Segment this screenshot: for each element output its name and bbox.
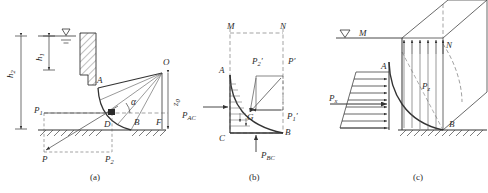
label-point-n-c: N: [446, 41, 452, 50]
px-pressure-diagram-c: [330, 62, 389, 130]
caption-panel-b: (b): [249, 172, 260, 182]
dashed-diagonal-c: [402, 52, 443, 130]
water-surface-c: [336, 30, 402, 38]
label-force-px-c: Px: [329, 94, 337, 103]
dashed-curve-c: [443, 44, 462, 102]
panel-c-graphics: [0, 0, 488, 193]
caption-panel-c: (c): [413, 172, 423, 182]
label-force-pz-c: Pz: [422, 82, 430, 91]
pressure-volume-block-c: [402, 0, 487, 130]
label-point-b-panel-c: B: [449, 120, 455, 129]
label-point-m-c: M: [359, 29, 367, 38]
panel-c-group: [330, 0, 487, 136]
curved-surface-ab-c: [389, 62, 443, 130]
ground-line-c: [398, 130, 487, 136]
pz-arrows-c: [404, 40, 443, 54]
caption-panel-a: (a): [90, 172, 100, 182]
figure-container: h2 h1 A O z0 D B F P1 P P2 α: [0, 0, 488, 193]
label-point-a-panel-c: A: [381, 62, 387, 71]
